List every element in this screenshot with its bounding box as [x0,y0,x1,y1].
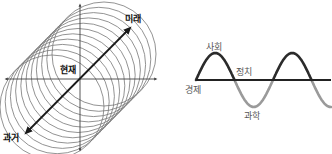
cycle-wave [196,53,331,107]
wave-lower-segment [235,80,331,107]
label-economy: 경제 [185,86,201,95]
label-society: 사회 [206,43,222,52]
label-science: 과학 [244,112,260,121]
label-politics: 정치 [236,68,252,77]
diagram-svg [0,0,332,154]
label-past: 과거 [3,134,19,143]
label-future: 미래 [125,15,141,24]
diagram-canvas: 미래 현재 과거 사회 정치 경제 과학 [0,0,332,154]
wave-upper-segment [196,53,312,80]
time-arrow [27,29,129,132]
label-present: 현재 [60,66,76,75]
time-circles [0,2,156,154]
